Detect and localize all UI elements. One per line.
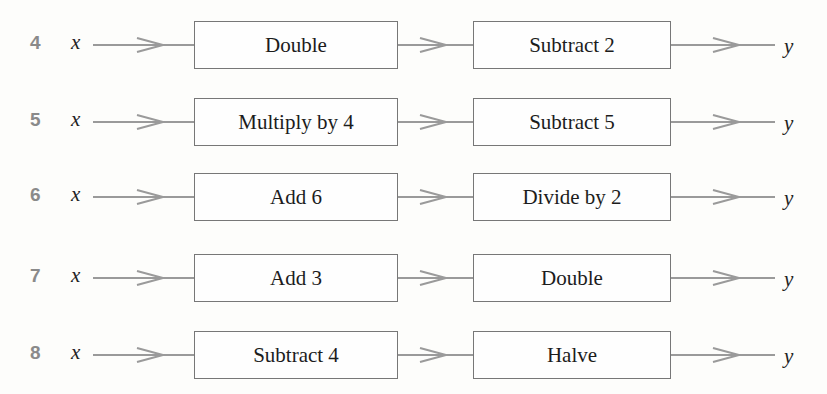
output-variable: y	[784, 346, 793, 366]
first-operation-box: Add 3	[194, 254, 398, 302]
input-variable: x	[71, 32, 80, 52]
arrow-icon	[398, 44, 473, 46]
arrow-icon	[93, 277, 194, 279]
arrow-icon	[93, 121, 194, 123]
arrow-icon	[671, 121, 775, 123]
output-variable: y	[784, 188, 793, 208]
second-operation-box: Double	[473, 254, 671, 302]
input-variable: x	[71, 342, 80, 362]
input-variable: x	[71, 265, 80, 285]
first-operation-box: Multiply by 4	[194, 98, 398, 146]
arrow-icon	[93, 354, 194, 356]
problem-number: 6	[30, 185, 41, 205]
arrow-icon	[93, 44, 194, 46]
input-variable: x	[71, 109, 80, 129]
function-chain-row: 7 x Add 3 Double y	[0, 248, 827, 308]
function-chain-row: 8 x Subtract 4 Halve y	[0, 325, 827, 385]
arrow-icon	[398, 121, 473, 123]
problem-number: 7	[30, 266, 41, 286]
second-operation-box: Subtract 2	[473, 21, 671, 69]
function-chain-row: 5 x Multiply by 4 Subtract 5 y	[0, 92, 827, 152]
arrow-icon	[671, 354, 775, 356]
first-operation-box: Double	[194, 21, 398, 69]
problem-number: 5	[30, 110, 41, 130]
problem-number: 4	[30, 33, 41, 53]
arrow-icon	[93, 196, 194, 198]
first-operation-box: Add 6	[194, 173, 398, 221]
input-variable: x	[71, 184, 80, 204]
second-operation-box: Divide by 2	[473, 173, 671, 221]
output-variable: y	[784, 113, 793, 133]
arrow-icon	[671, 277, 775, 279]
function-chain-row: 6 x Add 6 Divide by 2 y	[0, 167, 827, 227]
arrow-icon	[398, 196, 473, 198]
arrow-icon	[398, 277, 473, 279]
arrow-icon	[398, 354, 473, 356]
arrow-icon	[671, 44, 775, 46]
function-chain-row: 4 x Double Subtract 2 y	[0, 15, 827, 75]
output-variable: y	[784, 36, 793, 56]
output-variable: y	[784, 269, 793, 289]
second-operation-box: Halve	[473, 331, 671, 379]
arrow-icon	[671, 196, 775, 198]
first-operation-box: Subtract 4	[194, 331, 398, 379]
second-operation-box: Subtract 5	[473, 98, 671, 146]
problem-number: 8	[30, 343, 41, 363]
